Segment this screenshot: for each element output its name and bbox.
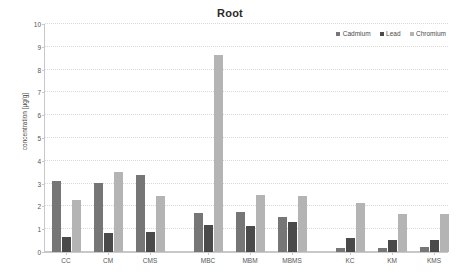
- y-axis-tick-label: 6: [37, 112, 41, 119]
- x-axis-tick-mark: [392, 252, 393, 255]
- x-axis-tick-label: CM: [103, 257, 113, 264]
- x-axis-tick-mark: [66, 252, 67, 255]
- bar-group-cms: CMS: [129, 25, 171, 252]
- bar-cadmium-kms[interactable]: [420, 247, 429, 252]
- cluster-gap: [313, 25, 329, 252]
- bar-group-mbm: MBM: [229, 25, 271, 252]
- cluster-2: MBCMBMMBMS: [187, 25, 313, 252]
- y-axis-tick-label: 10: [34, 21, 41, 28]
- y-axis-tick-label: 4: [37, 157, 41, 164]
- y-axis-tick-label: 3: [37, 180, 41, 187]
- bar-cadmium-mbm[interactable]: [236, 212, 245, 252]
- bar-cadmium-cms[interactable]: [136, 175, 145, 252]
- y-axis-tick-label: 5: [37, 135, 41, 142]
- cluster-1: CCCMCMS: [45, 25, 171, 252]
- y-axis-tick-mark: [42, 252, 45, 253]
- bar-lead-cms[interactable]: [146, 232, 155, 252]
- bar-chromium-cm[interactable]: [114, 172, 123, 252]
- bar-chromium-mbms[interactable]: [298, 196, 307, 252]
- bar-group-mbms: MBMS: [271, 25, 313, 252]
- bar-lead-cc[interactable]: [62, 237, 71, 252]
- x-axis-tick-label: KMS: [427, 257, 441, 264]
- y-axis-label: concentration [µg/g]: [21, 52, 28, 192]
- bar-cadmium-mbc[interactable]: [194, 213, 203, 252]
- y-axis-tick-label: 7: [37, 89, 41, 96]
- bar-cadmium-km[interactable]: [378, 248, 387, 252]
- bar-group-cc: CC: [45, 25, 87, 252]
- chart-title: Root: [0, 7, 460, 19]
- x-axis-tick-mark: [108, 252, 109, 255]
- bar-group-mbc: MBC: [187, 25, 229, 252]
- bar-chromium-mbm[interactable]: [256, 195, 265, 252]
- y-axis-tick-label: 9: [37, 43, 41, 50]
- bar-cadmium-mbms[interactable]: [278, 217, 287, 252]
- cluster-3: KCKMKMS: [329, 25, 455, 252]
- y-axis-tick-label: 1: [37, 226, 41, 233]
- x-axis-tick-label: MBMS: [282, 257, 302, 264]
- bar-lead-km[interactable]: [388, 240, 397, 252]
- bar-cadmium-kc[interactable]: [336, 248, 345, 252]
- bar-chromium-cms[interactable]: [156, 196, 165, 252]
- y-axis-tick-label: 8: [37, 66, 41, 73]
- x-axis-tick-label: CMS: [143, 257, 157, 264]
- gridline: 10: [45, 23, 448, 24]
- bar-lead-cm[interactable]: [104, 233, 113, 252]
- x-axis-tick-mark: [208, 252, 209, 255]
- x-axis-tick-mark: [434, 252, 435, 255]
- bar-chromium-cc[interactable]: [72, 200, 81, 252]
- x-axis-tick-mark: [150, 252, 151, 255]
- cluster-gap: [171, 25, 187, 252]
- x-axis-tick-mark: [350, 252, 351, 255]
- bar-lead-mbm[interactable]: [246, 226, 255, 252]
- bar-lead-mbms[interactable]: [288, 222, 297, 252]
- y-axis-tick-label: 0: [37, 249, 41, 256]
- bar-lead-mbc[interactable]: [204, 225, 213, 252]
- bar-cadmium-cc[interactable]: [52, 181, 61, 252]
- bar-chromium-km[interactable]: [398, 214, 407, 252]
- x-axis-tick-label: MBC: [201, 257, 215, 264]
- bar-group-kms: KMS: [413, 25, 455, 252]
- x-axis-tick-label: CC: [61, 257, 70, 264]
- bar-group-cm: CM: [87, 25, 129, 252]
- bar-group-kc: KC: [329, 25, 371, 252]
- x-axis-tick-mark: [292, 252, 293, 255]
- bar-lead-kc[interactable]: [346, 238, 355, 252]
- bar-groups: CCCMCMSMBCMBMMBMSKCKMKMS: [45, 25, 448, 252]
- plot-area: 012345678910 CCCMCMSMBCMBMMBMSKCKMKMS: [44, 25, 448, 253]
- x-axis-tick-mark: [250, 252, 251, 255]
- chart-container: Root CadmiumLeadChromium concentration […: [0, 0, 460, 280]
- y-axis-tick-label: 2: [37, 203, 41, 210]
- bar-chromium-mbc[interactable]: [214, 55, 223, 252]
- x-axis-tick-label: MBM: [242, 257, 257, 264]
- bar-chromium-kc[interactable]: [356, 203, 365, 252]
- x-axis-tick-label: KM: [387, 257, 397, 264]
- x-axis-tick-label: KC: [345, 257, 354, 264]
- bar-group-km: KM: [371, 25, 413, 252]
- bar-lead-kms[interactable]: [430, 240, 439, 252]
- bar-chromium-kms[interactable]: [440, 214, 449, 252]
- bar-cadmium-cm[interactable]: [94, 183, 103, 252]
